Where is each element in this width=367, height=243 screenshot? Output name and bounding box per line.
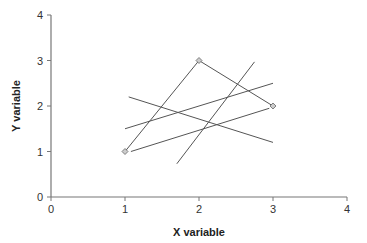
triangle-edge-2 — [199, 61, 273, 107]
y-tick-label: 0 — [37, 191, 43, 203]
y-tick-label: 3 — [37, 55, 43, 67]
scatter-chart: 0123401234 X variable Y variable — [0, 0, 367, 243]
x-tick-label: 4 — [344, 203, 350, 215]
triangle-edge-1 — [125, 61, 199, 152]
line-d — [131, 108, 269, 151]
x-axis-title: X variable — [173, 226, 225, 238]
x-tick-label: 0 — [48, 203, 54, 215]
x-tick-label: 2 — [196, 203, 202, 215]
diamond-marker-icon — [270, 103, 276, 109]
data-lines — [125, 61, 273, 164]
x-tick-label: 1 — [122, 203, 128, 215]
axes: 0123401234 — [37, 9, 350, 215]
x-tick-label: 3 — [270, 203, 276, 215]
y-tick-label: 1 — [37, 146, 43, 158]
line-a — [125, 83, 273, 129]
chart-canvas: 0123401234 X variable Y variable — [0, 0, 367, 243]
line-c — [177, 62, 255, 164]
y-axis-title: Y variable — [10, 80, 22, 132]
y-tick-label: 2 — [37, 100, 43, 112]
y-tick-label: 4 — [37, 9, 43, 21]
